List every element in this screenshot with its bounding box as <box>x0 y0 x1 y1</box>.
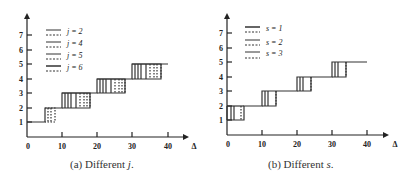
legend-s1: s = 1 <box>266 24 283 33</box>
step-series-b <box>227 62 367 120</box>
x-tick-labels: 0 10 20 30 40 Δ <box>26 142 197 151</box>
y-tick-6: 6 <box>219 44 223 53</box>
y-tick-7: 7 <box>219 29 223 38</box>
y-tick-5: 5 <box>219 58 223 67</box>
x-tick-30: 30 <box>328 140 336 149</box>
y-tick-5: 5 <box>19 60 23 69</box>
legend-labels: s = 1 s = 2 s = 3 <box>266 24 283 58</box>
y-tick-7: 7 <box>19 31 23 40</box>
y-tick-1: 1 <box>219 116 223 125</box>
chart-panel-different-j: 0 10 20 30 40 Δ 1 2 3 4 5 6 7 j <box>0 0 205 183</box>
step-series-a <box>27 64 168 122</box>
axes <box>24 13 189 140</box>
y-tick-2: 2 <box>19 104 23 113</box>
x-tick-0: 0 <box>26 142 30 151</box>
caption-a-text: (a) Different <box>70 158 125 170</box>
caption-a: (a) Different j. <box>70 158 134 170</box>
x-axis-label: Δ <box>191 142 196 151</box>
legend-s3: s = 3 <box>266 49 283 58</box>
x-tick-20: 20 <box>293 140 301 149</box>
y-tick-4: 4 <box>219 73 223 82</box>
caption-a-suffix: . <box>131 158 134 170</box>
y-tick-3: 3 <box>19 89 23 98</box>
y-tick-6: 6 <box>19 46 23 55</box>
y-tick-3: 3 <box>219 87 223 96</box>
legend-labels: j = 2 j = 4 j = 5 j = 6 <box>66 27 83 72</box>
legend-j4: j = 4 <box>66 39 83 48</box>
legend-s2: s = 2 <box>266 38 283 47</box>
caption-b-text: (b) Different <box>268 158 324 170</box>
legend-j5: j = 5 <box>66 51 83 60</box>
x-tick-0: 0 <box>226 140 230 149</box>
x-tick-30: 30 <box>128 142 136 151</box>
caption-b-suffix: . <box>331 158 334 170</box>
x-tick-10: 10 <box>58 142 66 151</box>
y-tick-4: 4 <box>19 75 23 84</box>
step-chart-a: 0 10 20 30 40 Δ 1 2 3 4 5 6 7 j <box>0 0 205 160</box>
y-tick-labels: 1 2 3 4 5 6 7 <box>219 29 223 125</box>
x-tick-10: 10 <box>258 140 266 149</box>
y-tick-1: 1 <box>19 118 23 127</box>
legend <box>245 27 260 58</box>
legend <box>46 30 61 71</box>
step-chart-b: 0 10 20 30 40 Δ 1 2 3 4 5 6 7 s = 1 s = … <box>204 0 409 160</box>
x-tick-40: 40 <box>363 140 371 149</box>
x-tick-40: 40 <box>164 142 172 151</box>
y-tick-labels: 1 2 3 4 5 6 7 <box>19 31 23 127</box>
chart-panel-different-s: 0 10 20 30 40 Δ 1 2 3 4 5 6 7 s = 1 s = … <box>204 0 409 183</box>
x-axis-label: Δ <box>392 140 397 149</box>
legend-j6: j = 6 <box>66 63 83 72</box>
legend-j2: j = 2 <box>66 27 83 36</box>
caption-b: (b) Different s. <box>268 158 333 170</box>
x-tick-labels: 0 10 20 30 40 Δ <box>226 140 398 149</box>
y-tick-2: 2 <box>219 102 223 111</box>
x-tick-20: 20 <box>93 142 101 151</box>
